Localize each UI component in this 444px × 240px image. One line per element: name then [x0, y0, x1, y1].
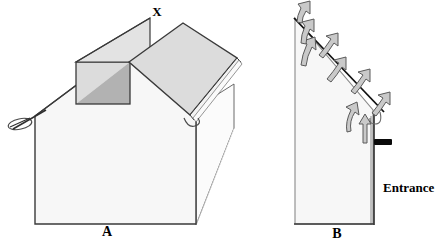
airflow-arrow-8	[297, 1, 310, 23]
entrance-bar	[374, 139, 392, 145]
diagram-canvas: X A	[0, 0, 444, 240]
label-b: B	[332, 226, 341, 240]
panel-a-group: X A	[7, 4, 242, 239]
figure-root: X A	[0, 0, 444, 240]
label-x: X	[152, 4, 162, 19]
label-entrance: Entrance	[383, 180, 435, 195]
panel-b-group: Entrance B	[294, 1, 435, 240]
airflow-arrow-2	[372, 92, 390, 116]
label-a: A	[102, 224, 113, 239]
